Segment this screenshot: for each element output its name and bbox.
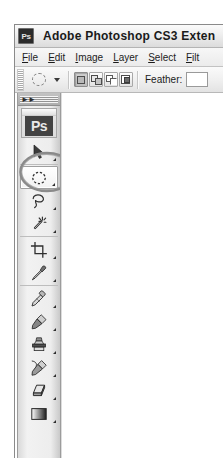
menu-item-layer[interactable]: Layer	[108, 51, 143, 64]
eyedropper-icon	[30, 264, 48, 282]
menu-item-layer-rest: ayer	[119, 52, 138, 63]
chevron-down-icon[interactable]	[54, 78, 60, 82]
new-selection-glyph	[77, 76, 85, 84]
new-selection-button[interactable]	[74, 72, 88, 87]
photoshop-logo: Ps	[25, 116, 53, 136]
document-canvas-area[interactable]	[61, 93, 223, 458]
subtract-from-selection-button[interactable]	[104, 72, 118, 87]
logo-cell-strip	[22, 109, 56, 116]
subtract-selection-glyph-front	[110, 78, 117, 85]
options-bar: Feather:	[15, 67, 223, 93]
menu-item-edit[interactable]: Edit	[43, 51, 70, 64]
menu-item-file[interactable]: File	[17, 51, 43, 64]
move-tool[interactable]	[20, 140, 58, 163]
move-arrow-icon	[30, 143, 48, 161]
eraser-tool-flyout-triangle[interactable]	[53, 397, 56, 400]
menu-item-image[interactable]: Image	[70, 51, 108, 64]
photoshop-logo-cell[interactable]: Ps	[21, 108, 57, 138]
magic-wand-tool-flyout-triangle[interactable]	[53, 230, 56, 233]
photoshop-app-icon[interactable]: Ps	[18, 28, 34, 44]
menu-item-select[interactable]: Select	[143, 51, 181, 64]
options-bar-divider-2	[137, 71, 139, 89]
elliptical-marquee-icon	[31, 71, 49, 89]
history-brush-tool-flyout-triangle[interactable]	[53, 374, 56, 377]
options-bar-divider-1	[68, 71, 70, 89]
healing-brush-tool-flyout-triangle[interactable]	[53, 305, 56, 308]
move-tool-flyout-triangle[interactable]	[53, 158, 56, 161]
intersect-with-selection-button[interactable]	[119, 72, 133, 87]
brush-tool[interactable]	[20, 310, 58, 333]
crop-tool-flyout-triangle[interactable]	[53, 256, 56, 259]
feather-label: Feather:	[145, 74, 182, 85]
menu-item-select-mnemonic: S	[148, 52, 155, 63]
gradient-tool-flyout-triangle[interactable]	[53, 420, 56, 423]
screenshot-root: Ps Adobe Photoshop CS3 Exten File Edit I…	[0, 0, 223, 475]
eyedropper-tool-flyout-triangle[interactable]	[53, 279, 56, 282]
brush-tool-flyout-triangle[interactable]	[53, 328, 56, 331]
tool-group-move	[20, 140, 58, 165]
history-brush-tool[interactable]	[20, 356, 58, 379]
tools-palette-header[interactable]: ►►	[18, 93, 60, 106]
clone-stamp-icon	[30, 336, 48, 354]
crop-icon	[30, 241, 48, 259]
photoshop-window: Ps Adobe Photoshop CS3 Exten File Edit I…	[14, 24, 223, 458]
menu-item-edit-mnemonic: E	[48, 52, 55, 63]
lasso-icon	[30, 192, 48, 210]
tool-group-paint	[20, 287, 58, 426]
menu-bar: File Edit Image Layer Select Filt	[15, 48, 223, 67]
eraser-icon	[30, 382, 48, 400]
gradient-icon	[30, 405, 48, 423]
tool-preset-picker[interactable]	[27, 71, 64, 89]
clone-stamp-tool-flyout-triangle[interactable]	[53, 351, 56, 354]
add-to-selection-button[interactable]	[89, 72, 103, 87]
feather-input[interactable]	[186, 72, 208, 87]
add-selection-glyph-front	[95, 78, 102, 85]
tool-group-crop	[20, 238, 58, 286]
menu-item-edit-rest: dit	[55, 52, 66, 63]
menu-item-filter[interactable]: Filt	[181, 51, 204, 64]
menu-item-filter-rest: ilt	[192, 52, 199, 63]
tools-palette: ►► Ps	[17, 93, 61, 458]
clone-stamp-tool[interactable]	[20, 333, 58, 356]
tool-group-selection	[20, 166, 58, 237]
magic-wand-icon	[30, 215, 48, 233]
elliptical-marquee-icon	[30, 169, 48, 187]
options-bar-gripper[interactable]	[17, 69, 24, 91]
menu-item-file-rest: ile	[28, 52, 38, 63]
eyedropper-tool[interactable]	[20, 261, 58, 284]
healing-brush-icon	[30, 290, 48, 308]
tool-list	[18, 140, 60, 426]
marquee-tool-flyout-triangle[interactable]	[52, 183, 55, 186]
title-bar[interactable]: Ps Adobe Photoshop CS3 Exten	[15, 25, 223, 48]
work-area: ►► Ps	[15, 93, 223, 458]
lasso-tool-flyout-triangle[interactable]	[53, 207, 56, 210]
menu-item-select-rest: elect	[155, 52, 176, 63]
elliptical-marquee-tool[interactable]	[20, 166, 58, 189]
magic-wand-tool[interactable]	[20, 212, 58, 235]
dashed-ellipse-shape	[32, 73, 46, 86]
feather-group: Feather:	[145, 72, 208, 87]
window-title: Adobe Photoshop CS3 Exten	[43, 29, 215, 43]
healing-brush-tool[interactable]	[20, 287, 58, 310]
history-brush-icon	[30, 359, 48, 377]
gradient-tool[interactable]	[20, 402, 58, 425]
intersect-selection-glyph-front	[124, 77, 130, 83]
menu-item-image-rest: mage	[78, 52, 103, 63]
lasso-tool[interactable]	[20, 189, 58, 212]
double-chevron-right-icon[interactable]: ►►	[21, 95, 35, 104]
eraser-tool[interactable]	[20, 379, 58, 402]
selection-mode-group	[74, 72, 133, 87]
crop-tool[interactable]	[20, 238, 58, 261]
brush-icon	[30, 313, 48, 331]
